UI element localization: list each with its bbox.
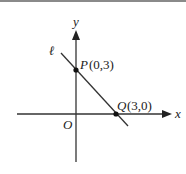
point-p-dot bbox=[73, 67, 78, 72]
point-q-label: Q (3,0) bbox=[117, 98, 152, 113]
origin-label: O bbox=[63, 117, 73, 132]
point-p-name: P bbox=[79, 57, 88, 72]
x-axis-label: x bbox=[174, 106, 181, 121]
y-axis-label: y bbox=[71, 14, 79, 29]
coordinate-diagram: y x O ℓ P (0,3) Q (3,0) bbox=[0, 0, 186, 174]
point-p-coords: (0,3) bbox=[89, 57, 114, 72]
y-axis-arrow-icon bbox=[72, 30, 80, 40]
point-p-label: P (0,3) bbox=[79, 57, 114, 72]
y-axis bbox=[72, 30, 80, 162]
line-l-label: ℓ bbox=[49, 43, 55, 58]
point-q-name: Q bbox=[117, 98, 127, 113]
x-axis-arrow-icon bbox=[162, 110, 172, 118]
point-q-coords: (3,0) bbox=[127, 98, 152, 113]
